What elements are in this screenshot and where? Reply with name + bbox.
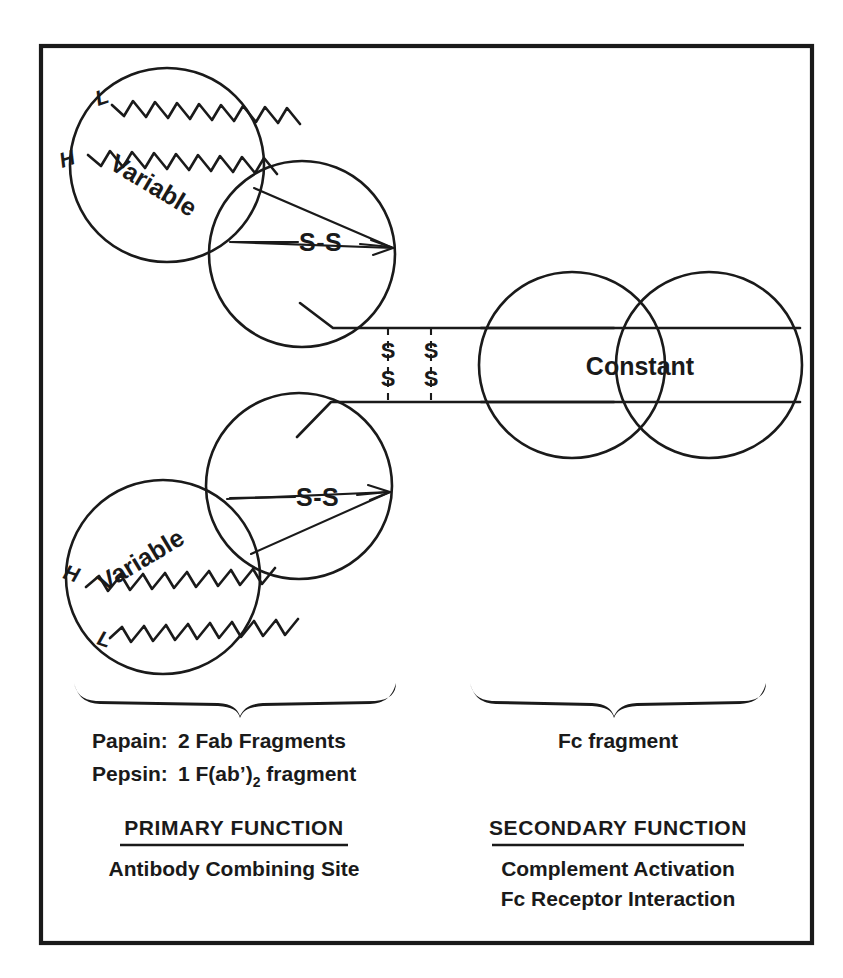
lower-fab-light-chain-zigzag (110, 619, 298, 642)
fc-constant-label: Constant (586, 352, 695, 380)
antibody-structure-figure: L H Variable S-S H (0, 0, 843, 978)
hinge-bond-2-sulfur-top: S (424, 338, 439, 363)
right-text-column: Fc fragment SECONDARY FUNCTION Complemen… (489, 729, 747, 910)
hinge-bond-1-sulfur-bottom: S (381, 366, 396, 391)
fc-brace (470, 683, 766, 718)
papain-enzyme-label: Papain: (92, 729, 168, 752)
upper-fab-light-chain-zigzag (112, 101, 300, 124)
upper-fab-disulfide-label: S-S (299, 228, 342, 256)
secondary-function-item-0: Complement Activation (501, 857, 735, 880)
lower-fab-disulfide-label: S-S (296, 483, 339, 511)
hinge-upper-rail (300, 303, 614, 328)
hinge-bond-1-sulfur-top: S (381, 338, 396, 363)
pepsin-product-prefix: 1 F(ab’) (178, 762, 253, 785)
hinge-lower-rail (297, 402, 614, 437)
upper-fab-variable-label: Variable (105, 148, 202, 221)
lower-fab-variable-label: Variable (92, 523, 189, 596)
lower-fab-arm: H L Variable S-S (61, 393, 392, 674)
lower-fab-heavy-chain-label: H (61, 560, 83, 587)
primary-function-item-0: Antibody Combining Site (109, 857, 360, 880)
hinge-bond-2-sulfur-bottom: S (424, 366, 439, 391)
lower-fab-light-chain-label: L (95, 626, 114, 652)
pepsin-product-subscript: 2 (253, 774, 261, 790)
fab-brace (74, 683, 396, 718)
upper-fab-arm: L H Variable S-S (56, 68, 395, 347)
fc-fragment-label: Fc fragment (558, 729, 678, 752)
pepsin-product-suffix: fragment (260, 762, 356, 785)
hinge-region: S S S S (297, 303, 614, 437)
pepsin-enzyme-label: Pepsin: (92, 762, 168, 785)
pepsin-product-label: 1 F(ab’)2 fragment (178, 762, 356, 790)
antibody-diagram-canvas: L H Variable S-S H (0, 0, 843, 978)
fc-region: Constant (479, 272, 802, 458)
secondary-function-item-1: Fc Receptor Interaction (501, 887, 736, 910)
secondary-function-heading: SECONDARY FUNCTION (489, 816, 747, 839)
upper-fab-heavy-chain-label: H (56, 145, 78, 172)
primary-function-heading: PRIMARY FUNCTION (124, 816, 344, 839)
papain-product-label: 2 Fab Fragments (178, 729, 346, 752)
left-text-column: Papain: 2 Fab Fragments Pepsin: 1 F(ab’)… (92, 729, 359, 880)
